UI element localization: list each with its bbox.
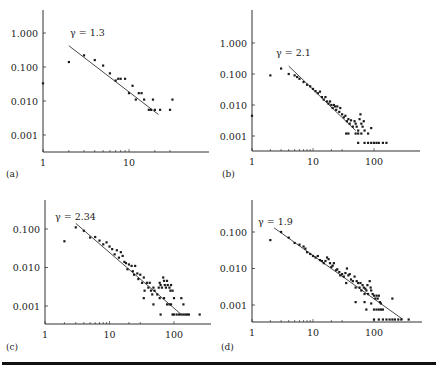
data-point xyxy=(332,265,334,267)
data-point xyxy=(178,313,180,315)
data-point xyxy=(68,61,70,63)
data-point xyxy=(343,275,345,277)
y-tick-label: 0.100 xyxy=(220,227,247,238)
power-law-fit-line xyxy=(274,228,403,320)
data-point xyxy=(375,295,377,297)
data-point xyxy=(321,260,323,262)
data-point xyxy=(321,96,323,98)
y-tick-label: 0.001 xyxy=(11,130,38,141)
data-point xyxy=(377,297,379,299)
data-point xyxy=(125,262,127,264)
data-point xyxy=(346,120,348,122)
x-tick-label: 100 xyxy=(365,156,383,167)
data-point xyxy=(160,284,162,286)
x-tick-label: 10 xyxy=(307,327,319,338)
data-point xyxy=(306,84,308,86)
data-point xyxy=(400,318,402,320)
data-point xyxy=(83,230,85,232)
y-tick-label: 0.001 xyxy=(220,131,247,142)
data-point xyxy=(355,123,357,125)
data-point xyxy=(143,98,145,100)
data-point xyxy=(269,239,271,241)
data-point xyxy=(143,297,145,299)
data-point xyxy=(388,318,390,320)
x-tick-label: 10 xyxy=(307,156,319,167)
data-point xyxy=(171,98,173,100)
data-point xyxy=(156,293,158,295)
data-point xyxy=(357,282,359,284)
data-point xyxy=(319,91,321,93)
data-point xyxy=(102,64,104,66)
data-point xyxy=(132,270,134,272)
data-point xyxy=(251,115,253,117)
bottom-rule-divider xyxy=(2,362,436,365)
panel-label: (b) xyxy=(222,169,235,179)
data-point xyxy=(149,282,151,284)
data-point xyxy=(353,120,355,122)
data-point xyxy=(339,107,341,109)
data-point xyxy=(382,308,384,310)
x-tick-label: 10 xyxy=(123,157,135,168)
data-point xyxy=(366,284,368,286)
data-point xyxy=(309,85,311,87)
data-point xyxy=(359,113,361,115)
data-point xyxy=(141,282,143,284)
data-point xyxy=(188,313,190,315)
data-point xyxy=(304,248,306,250)
data-point xyxy=(349,123,351,125)
data-point xyxy=(136,272,138,274)
data-point xyxy=(153,290,155,292)
data-point xyxy=(367,132,369,134)
x-tick-label: 1 xyxy=(249,327,255,338)
data-point xyxy=(152,287,154,289)
data-point xyxy=(114,253,116,255)
y-tick-label: 0.010 xyxy=(11,96,38,107)
data-point xyxy=(330,104,332,106)
data-point xyxy=(182,313,184,315)
data-point xyxy=(357,129,359,131)
data-point xyxy=(367,142,369,144)
data-point xyxy=(382,318,384,320)
data-point xyxy=(98,239,100,241)
data-point xyxy=(143,290,145,292)
data-point xyxy=(167,284,169,286)
data-point xyxy=(137,278,139,280)
data-point xyxy=(385,318,387,320)
y-tick-label: 0.001 xyxy=(13,301,40,312)
data-point xyxy=(355,286,357,288)
data-point xyxy=(345,282,347,284)
data-point xyxy=(344,272,346,274)
data-point xyxy=(344,115,346,117)
data-point xyxy=(345,132,347,134)
data-point xyxy=(367,293,369,295)
x-tick-label: 100 xyxy=(165,329,183,340)
data-point xyxy=(159,282,161,284)
data-point xyxy=(391,318,393,320)
data-point xyxy=(173,313,175,315)
data-point xyxy=(163,297,165,299)
data-point xyxy=(159,297,161,299)
data-point xyxy=(298,244,300,246)
data-point xyxy=(166,303,168,305)
data-point xyxy=(126,268,128,270)
data-point xyxy=(298,78,300,80)
y-tick-label: 0.100 xyxy=(220,69,247,80)
data-point xyxy=(355,301,357,303)
data-point xyxy=(370,127,372,129)
x-tick-label: 1 xyxy=(40,157,46,168)
gamma-annotation: γ = 1.9 xyxy=(258,216,293,227)
data-point xyxy=(358,118,360,120)
data-point xyxy=(385,142,387,144)
power-law-fit-line xyxy=(69,46,159,115)
data-point xyxy=(363,142,365,144)
data-point xyxy=(380,302,382,304)
data-point xyxy=(165,287,167,289)
data-point xyxy=(380,308,382,310)
data-point xyxy=(378,142,380,144)
data-point xyxy=(357,132,359,134)
data-point xyxy=(378,318,380,320)
data-point xyxy=(378,308,380,310)
data-point xyxy=(370,302,372,304)
y-tick-label: 0.100 xyxy=(13,224,40,235)
data-point xyxy=(323,262,325,264)
